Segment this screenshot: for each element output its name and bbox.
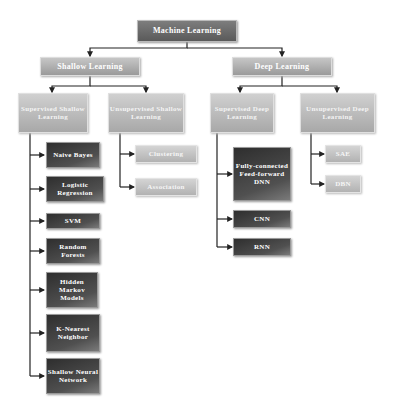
node-shallow-learning: Shallow Learning: [40, 57, 140, 76]
node-deep-learning: Deep Learning: [232, 57, 332, 76]
node-association: Association: [135, 178, 197, 196]
node-label: Deep Learning: [255, 62, 310, 71]
node-supervised-shallow-learning: Supervised Shallow Learning: [18, 93, 88, 133]
node-label: SVM: [65, 217, 81, 225]
node-machine-learning: Machine Learning: [137, 20, 237, 42]
node-label: RNN: [254, 243, 270, 251]
node-label: CNN: [254, 215, 270, 223]
node-label: Machine Learning: [153, 26, 221, 35]
node-label: Supervised Deep Learning: [211, 105, 273, 121]
node-label: Logistic Regression: [47, 181, 103, 197]
node-sae: SAE: [325, 145, 361, 163]
node-dbn: DBN: [325, 175, 361, 193]
node-label: Clustering: [149, 150, 184, 158]
node-rnn: RNN: [233, 238, 291, 256]
node-hidden-markov-models: Hidden Markov Models: [46, 272, 98, 308]
node-fully-connected-dnn: Fully-connected Feed-forward DNN: [233, 147, 291, 201]
node-label: Naive Bayes: [53, 151, 93, 159]
node-k-nearest-neighbor: K-Nearest Neighbor: [46, 314, 100, 352]
node-random-forests: Random Forests: [46, 238, 100, 264]
node-label: SAE: [336, 150, 351, 158]
node-label: Unsupervised Deep Learning: [301, 105, 374, 121]
node-label: Shallow Learning: [57, 62, 122, 71]
node-naive-bayes: Naive Bayes: [46, 142, 100, 168]
node-label: Shallow Neural Network: [47, 368, 99, 384]
node-label: Hidden Markov Models: [47, 278, 97, 302]
node-shallow-neural-network: Shallow Neural Network: [46, 358, 100, 394]
node-label: Random Forests: [47, 243, 99, 259]
node-label: K-Nearest Neighbor: [47, 325, 99, 341]
node-label: Supervised Shallow Learning: [19, 105, 87, 121]
node-unsupervised-deep-learning: Unsupervised Deep Learning: [300, 93, 375, 133]
node-clustering: Clustering: [135, 145, 197, 163]
ml-taxonomy-diagram: Machine Learning Shallow Learning Deep L…: [0, 0, 395, 409]
node-label: Association: [147, 183, 185, 191]
node-cnn: CNN: [233, 210, 291, 228]
node-supervised-deep-learning: Supervised Deep Learning: [210, 93, 274, 133]
node-label: DBN: [335, 180, 351, 188]
node-unsupervised-shallow-learning: Unsupervised Shallow Learning: [108, 93, 184, 133]
node-label: Unsupervised Shallow Learning: [109, 105, 183, 121]
node-label: Fully-connected Feed-forward DNN: [234, 162, 290, 186]
node-svm: SVM: [46, 213, 100, 229]
node-logistic-regression: Logistic Regression: [46, 176, 104, 202]
